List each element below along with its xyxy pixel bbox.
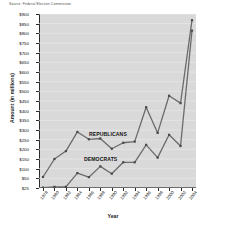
y-tick-label: $600 — [19, 70, 29, 75]
y-tick-label: $800 — [19, 31, 29, 36]
data-point-marker — [88, 138, 90, 140]
data-point-marker — [122, 161, 124, 163]
data-point-marker — [65, 186, 67, 188]
x-tick-mark — [158, 188, 159, 191]
plot-area — [39, 14, 196, 188]
data-point-marker — [134, 161, 136, 163]
data-point-marker — [111, 173, 113, 175]
data-point-marker — [145, 144, 147, 146]
y-tick-label: $750 — [19, 41, 29, 46]
y-tick-label: $700 — [19, 50, 29, 55]
x-tick-mark — [77, 188, 78, 191]
data-point-marker — [53, 186, 55, 188]
data-point-marker — [157, 132, 159, 134]
data-point-marker — [145, 106, 147, 108]
y-tick-label: $500 — [19, 89, 29, 94]
y-tick-label: $25 — [22, 186, 29, 191]
data-point-marker — [168, 95, 170, 97]
x-tick-mark — [146, 188, 147, 191]
series-label-republicans: REPUBLICANS — [89, 131, 127, 137]
y-tick-label: $550 — [19, 79, 29, 84]
y-tick-label: $900 — [19, 12, 29, 17]
x-tick-mark — [89, 188, 90, 191]
data-point-marker — [42, 187, 44, 188]
y-tick-label: $50 — [22, 176, 29, 181]
x-tick-label: 1990 — [108, 190, 118, 201]
x-tick-label: 2004 — [188, 190, 198, 201]
series-canvas — [39, 14, 196, 188]
y-tick-label: $250 — [19, 137, 29, 142]
y-tick-label: $400 — [19, 108, 29, 113]
series-line-democrats — [43, 31, 192, 188]
x-tick-label: 1982 — [62, 190, 72, 201]
x-tick-label: 1980 — [51, 190, 61, 201]
y-tick-label: $350 — [19, 118, 29, 123]
data-point-marker — [179, 145, 181, 147]
data-point-marker — [191, 30, 193, 32]
x-tick-mark — [43, 188, 44, 191]
y-axis-title: Amount (in millions) — [9, 53, 15, 143]
x-axis-title: Year — [0, 213, 226, 219]
x-tick-label: 1986 — [85, 190, 95, 201]
source-caption: Source: Federal Election Commission — [9, 2, 71, 6]
series-line-republicans — [43, 20, 192, 177]
x-tick-label: 2000 — [165, 190, 175, 201]
data-point-marker — [76, 172, 78, 174]
x-tick-label: 2002 — [177, 190, 187, 201]
y-tick-label: $100 — [19, 166, 29, 171]
data-point-marker — [42, 176, 44, 178]
data-point-marker — [134, 141, 136, 143]
x-tick-label: 1994 — [131, 190, 141, 201]
y-tick-label: $450 — [19, 99, 29, 104]
y-tick-label: $150 — [19, 157, 29, 162]
x-tick-label: 1992 — [119, 190, 129, 201]
data-point-marker — [99, 137, 101, 139]
data-point-marker — [65, 150, 67, 152]
data-point-marker — [122, 142, 124, 144]
data-point-marker — [88, 176, 90, 178]
x-tick-label: 1978 — [39, 190, 49, 201]
x-tick-label: 1998 — [154, 190, 164, 201]
x-tick-mark — [192, 188, 193, 191]
data-point-marker — [99, 165, 101, 167]
x-tick-mark — [169, 188, 170, 191]
x-tick-mark — [181, 188, 182, 191]
y-tick-label: $850 — [19, 21, 29, 26]
x-tick-mark — [112, 188, 113, 191]
series-label-democrats: DEMOCRATS — [84, 156, 117, 162]
data-point-marker — [168, 134, 170, 136]
y-tick-label: $650 — [19, 60, 29, 65]
x-tick-mark — [66, 188, 67, 191]
data-point-marker — [76, 131, 78, 133]
data-point-marker — [157, 157, 159, 159]
x-tick-label: 1996 — [142, 190, 152, 201]
x-tick-mark — [123, 188, 124, 191]
y-tick-label: $300 — [19, 128, 29, 133]
x-tick-label: 1984 — [73, 190, 83, 201]
chart-figure: Source: Federal Election Commission Amou… — [0, 0, 226, 228]
x-tick-label: 1988 — [96, 190, 106, 201]
x-tick-mark — [135, 188, 136, 191]
y-tick-mark — [36, 188, 39, 189]
data-point-marker — [111, 148, 113, 150]
y-tick-label: $200 — [19, 147, 29, 152]
x-tick-mark — [54, 188, 55, 191]
data-point-marker — [179, 102, 181, 104]
x-tick-mark — [100, 188, 101, 191]
data-point-marker — [53, 158, 55, 160]
data-point-marker — [191, 19, 193, 21]
